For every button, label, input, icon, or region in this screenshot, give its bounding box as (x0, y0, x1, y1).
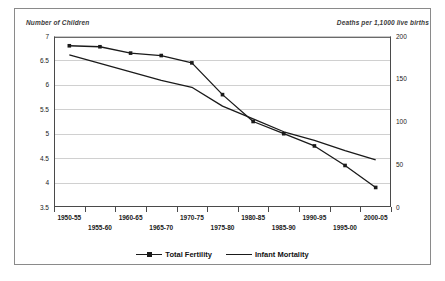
chart-page: Number of Children Deaths per 1,1000 liv… (0, 0, 445, 281)
data-point-marker (129, 51, 133, 55)
data-point-marker (68, 44, 72, 48)
data-point-marker (313, 144, 317, 148)
legend-label-total-fertility: Total Fertility (165, 250, 212, 259)
series-line-infant-mortality (69, 55, 375, 160)
data-point-marker (374, 186, 378, 190)
legend-marker-square-icon (136, 250, 162, 258)
data-point-marker (221, 93, 225, 97)
data-point-marker (190, 61, 194, 65)
data-point-marker (159, 54, 163, 58)
legend-item-total-fertility[interactable]: Total Fertility (136, 250, 212, 259)
legend-marker-line-icon (226, 250, 252, 258)
data-point-marker (343, 164, 347, 168)
series-layer (0, 0, 445, 281)
data-point-marker (98, 45, 102, 49)
chart-legend: Total Fertility Infant Mortality (0, 247, 445, 261)
legend-item-infant-mortality[interactable]: Infant Mortality (226, 250, 309, 259)
legend-label-infant-mortality: Infant Mortality (255, 250, 309, 259)
data-point-marker (251, 120, 255, 124)
